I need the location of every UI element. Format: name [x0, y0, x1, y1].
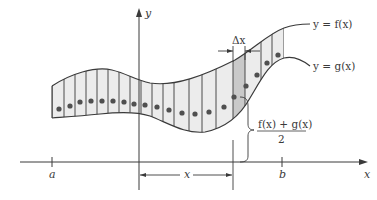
midpoint-dot — [166, 107, 171, 112]
midpoint-dot — [179, 110, 184, 115]
highlighted-strip — [233, 0, 245, 200]
delta-x-label: Δx — [232, 34, 246, 46]
midpoint-dot — [56, 106, 61, 111]
midpoint-dot — [275, 52, 280, 57]
x-axis-label: x — [364, 168, 371, 181]
midpoint-dot — [131, 101, 136, 106]
midpoint-dot — [88, 98, 93, 103]
midpoint-dot — [121, 99, 126, 104]
midpoint-dot — [254, 72, 259, 77]
x-axis — [20, 159, 368, 165]
tick-label-b: b — [279, 168, 286, 181]
y-axis-arrow-icon — [136, 8, 142, 17]
x-distance-label: x — [184, 168, 191, 181]
tick-label-a: a — [49, 168, 56, 181]
midpoint-dot — [110, 98, 115, 103]
midpoint-dot — [206, 109, 211, 114]
curve-label-f: y = f(x) — [312, 18, 352, 30]
midpoint-dot — [142, 102, 147, 107]
midpoint-dot — [243, 83, 248, 88]
area-between-curves-diagram: y x a b y = f(x) y = g(x) Δx x f(x) + g(… — [0, 0, 377, 200]
midpoint-dot — [221, 104, 226, 109]
midpoint-dot — [77, 99, 82, 104]
midpoint-dot — [192, 111, 197, 116]
curve-label-g: y = g(x) — [312, 60, 355, 72]
midpoint-dot — [231, 94, 236, 99]
y-axis-label: y — [144, 7, 152, 20]
midpoint-dot — [67, 103, 72, 108]
midpoint-dot — [99, 98, 104, 103]
x-distance-dimension — [140, 140, 233, 190]
midpoint-dot — [264, 60, 269, 65]
fraction-denominator: 2 — [278, 133, 285, 145]
fraction-numerator: f(x) + g(x) — [258, 118, 312, 130]
midpoint-dot — [154, 104, 159, 109]
x-axis-arrow-icon — [359, 159, 368, 165]
